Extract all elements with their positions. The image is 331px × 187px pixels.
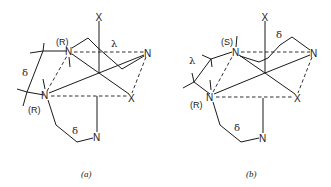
conf-upper-ring: δ bbox=[276, 29, 282, 40]
panel-b: X N N X N N (S) (R) δ λ δ (b) bbox=[183, 12, 317, 179]
atom-x-right: X bbox=[294, 93, 301, 104]
atom-n-bottom: N bbox=[93, 132, 100, 143]
panel-a: X N N X N N (R) (R) λ δ δ (a) bbox=[17, 12, 151, 179]
atom-n-upper: N bbox=[65, 46, 72, 57]
conf-lower-ring: δ bbox=[234, 122, 240, 133]
stub-nupper-down bbox=[69, 57, 70, 67]
stub-c1-down bbox=[211, 59, 212, 67]
bond-center-nupper bbox=[239, 55, 265, 73]
stub-c2-left bbox=[183, 82, 194, 88]
bond-center-nright bbox=[265, 55, 310, 73]
config-lower-n: (R) bbox=[28, 105, 41, 115]
stub-c2-up bbox=[192, 73, 194, 82]
bond-center-xright bbox=[99, 73, 129, 94]
stub-c1-up bbox=[43, 43, 44, 51]
stub-c1-up bbox=[202, 55, 211, 59]
atom-n-bottom: N bbox=[259, 133, 266, 144]
caption-b: (b) bbox=[246, 169, 257, 179]
conf-left-ring: δ bbox=[22, 67, 28, 78]
stub-nupper-up bbox=[236, 36, 237, 47]
dash-nleft-nupper bbox=[213, 57, 232, 92]
atom-n-right: N bbox=[144, 48, 151, 59]
stub-c2-down bbox=[23, 92, 27, 106]
ring-left-lambda bbox=[194, 52, 232, 94]
ring-upper-lambda bbox=[72, 38, 144, 69]
ring-lower-delta bbox=[48, 100, 93, 142]
caption-a: (a) bbox=[81, 169, 92, 179]
conf-upper-ring: λ bbox=[111, 38, 118, 49]
bond-center-nright bbox=[99, 55, 144, 73]
atom-n-upper: N bbox=[232, 47, 239, 58]
atom-x-right: X bbox=[128, 93, 135, 104]
atom-n-right: N bbox=[310, 48, 317, 59]
bond-center-nleft bbox=[49, 73, 99, 93]
stub-c2-left bbox=[17, 89, 27, 92]
dash-nright-xright bbox=[298, 57, 312, 93]
dash-nleft-nupper bbox=[47, 56, 67, 91]
ring-upper-delta bbox=[240, 37, 310, 62]
stub-nleft-up bbox=[43, 79, 45, 89]
bond-center-nupper bbox=[72, 54, 99, 73]
config-lower-n: (R) bbox=[190, 100, 203, 110]
diagram-figure: X N N X N N (R) (R) λ δ δ (a) bbox=[0, 0, 331, 187]
bond-center-xright bbox=[265, 73, 295, 94]
atom-n-left: N bbox=[41, 90, 48, 101]
atom-x-top: X bbox=[96, 12, 103, 23]
stub-nleft-up bbox=[210, 80, 211, 90]
atom-x-top: X bbox=[262, 12, 269, 23]
conf-left-ring: λ bbox=[189, 55, 196, 66]
stub-c1-left bbox=[30, 51, 43, 53]
conf-lower-ring: δ bbox=[72, 125, 78, 136]
config-upper-n: (R) bbox=[56, 37, 69, 47]
atom-n-left: N bbox=[206, 92, 213, 103]
config-upper-n: (S) bbox=[221, 37, 233, 47]
